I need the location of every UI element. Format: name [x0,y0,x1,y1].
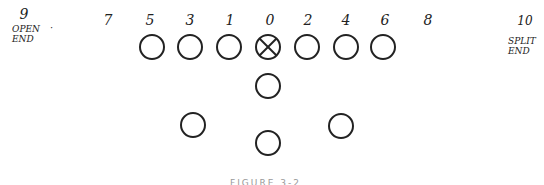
center-icon [256,35,280,59]
lineman-1-icon [217,35,241,59]
player-symbols [0,0,544,185]
fullback-icon [256,131,280,155]
lineman-2-icon [295,35,319,59]
quarterback-icon [256,74,280,98]
lineman-4-icon [334,35,358,59]
left-halfback-icon [181,113,205,137]
right-halfback-icon [329,114,353,138]
lineman-5-icon [140,35,164,59]
lineman-6-icon [371,35,395,59]
figure-caption: FIGURE 3-2 [230,178,301,185]
lineman-3-icon [178,35,202,59]
